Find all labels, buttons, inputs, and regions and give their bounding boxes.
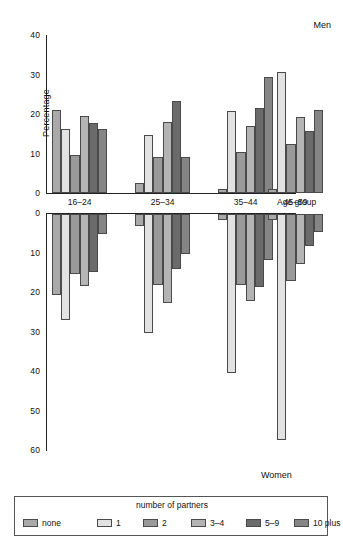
y-tick-women-20: 20 — [18, 287, 40, 297]
legend: number of partnersnone123–45–910 plus — [14, 496, 328, 536]
bar-women-g3-s3 — [296, 214, 305, 264]
legend-swatch-3 — [191, 519, 206, 527]
legend-swatch-5 — [294, 519, 309, 527]
bar-women-g3-s2 — [286, 214, 295, 281]
y-tick-women-50: 50 — [18, 406, 40, 416]
y-tick-men-20: 20 — [18, 109, 40, 119]
bar-women-g2-s5 — [264, 214, 273, 260]
bar-women-g1-s0 — [135, 214, 144, 226]
legend-item-10-plus[interactable]: 10 plus — [294, 516, 340, 530]
legend-title: number of partners — [15, 500, 329, 510]
bar-women-g1-s2 — [153, 214, 162, 285]
bar-men-g1-s3 — [163, 122, 172, 193]
y-tick-men-30: 30 — [18, 70, 40, 80]
y-tick-men-40: 40 — [18, 30, 40, 40]
bar-women-g3-s4 — [305, 214, 314, 246]
legend-swatch-2 — [143, 519, 158, 527]
x-tick-label-1: 25–34 — [127, 197, 198, 207]
x-tick-label-0: 16–24 — [44, 197, 115, 207]
legend-row: none123–45–910 plus — [15, 516, 329, 532]
bar-men-g2-s3 — [246, 126, 255, 193]
y-tick-women-10: 10 — [18, 248, 40, 258]
bar-men-g2-s0 — [218, 189, 227, 193]
bar-women-g2-s2 — [236, 214, 245, 285]
bar-women-g3-s1 — [277, 214, 286, 440]
bar-women-g1-s1 — [144, 214, 153, 333]
bar-men-g1-s0 — [135, 183, 144, 193]
bar-men-g0-s3 — [80, 116, 89, 193]
y-axis-women — [46, 213, 47, 451]
legend-item-2[interactable]: 2 — [143, 516, 167, 530]
bar-men-g0-s0 — [52, 110, 61, 193]
bar-men-g3-s1 — [277, 72, 286, 193]
y-tick-women-60: 60 — [18, 445, 40, 455]
legend-swatch-4 — [246, 519, 261, 527]
y-axis-title: Percentage — [41, 68, 51, 158]
bar-women-g0-s2 — [70, 214, 79, 274]
bar-men-g2-s2 — [236, 152, 245, 193]
bar-men-g0-s4 — [89, 123, 98, 193]
bar-women-g0-s5 — [98, 214, 107, 234]
legend-label-2: 2 — [162, 518, 167, 528]
bar-women-g2-s0 — [218, 214, 227, 220]
legend-swatch-1 — [97, 519, 112, 527]
legend-item-none[interactable]: none — [23, 516, 61, 530]
bar-men-g2-s1 — [227, 111, 236, 193]
bar-women-g0-s4 — [89, 214, 98, 272]
bar-women-g1-s5 — [181, 214, 190, 254]
bar-men-g1-s1 — [144, 135, 153, 193]
bar-women-g3-s5 — [314, 214, 323, 232]
bar-women-g2-s3 — [246, 214, 255, 301]
y-tick-women-30: 30 — [18, 327, 40, 337]
panel-label-men: Men — [313, 20, 331, 30]
bar-women-g0-s0 — [52, 214, 61, 295]
bar-men-g3-s3 — [296, 117, 305, 193]
bar-men-g2-s4 — [255, 108, 264, 193]
y-tick-women-0: 0 — [18, 208, 40, 218]
bar-women-g2-s4 — [255, 214, 264, 287]
y-tick-men-10: 10 — [18, 149, 40, 159]
bar-women-g1-s4 — [172, 214, 181, 269]
bar-men-g1-s2 — [153, 157, 162, 193]
bar-men-g0-s5 — [98, 129, 107, 193]
bar-men-g3-s5 — [314, 110, 323, 193]
legend-item-5–9[interactable]: 5–9 — [246, 516, 279, 530]
legend-item-1[interactable]: 1 — [97, 516, 121, 530]
bar-men-g1-s5 — [181, 157, 190, 193]
x-axis-men — [46, 193, 296, 194]
bar-women-g0-s3 — [80, 214, 89, 286]
bar-women-g1-s3 — [163, 214, 172, 303]
bar-men-g0-s2 — [70, 155, 79, 193]
y-tick-women-40: 40 — [18, 366, 40, 376]
legend-label-0: none — [42, 518, 61, 528]
bar-men-g0-s1 — [61, 129, 70, 193]
legend-label-5: 10 plus — [313, 518, 340, 528]
chart-canvas: 010203040010203040506016–2425–3435–4445–… — [0, 0, 343, 544]
panel-label-women: Women — [261, 470, 292, 480]
bar-men-g3-s0 — [268, 189, 277, 193]
bar-men-g1-s4 — [172, 101, 181, 193]
bar-men-g2-s5 — [264, 77, 273, 193]
legend-item-3–4[interactable]: 3–4 — [191, 516, 224, 530]
legend-swatch-0 — [23, 519, 38, 527]
bar-women-g0-s1 — [61, 214, 70, 320]
legend-label-4: 5–9 — [265, 518, 279, 528]
bar-men-g3-s4 — [305, 131, 314, 193]
bar-women-g3-s0 — [268, 214, 277, 220]
legend-label-3: 3–4 — [210, 518, 224, 528]
legend-label-1: 1 — [116, 518, 121, 528]
bar-women-g2-s1 — [227, 214, 236, 373]
x-axis-title: Age group — [277, 197, 316, 207]
bar-men-g3-s2 — [286, 144, 295, 193]
y-tick-men-0: 0 — [18, 188, 40, 198]
